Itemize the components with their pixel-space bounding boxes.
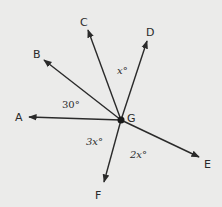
angle-diagram: A B C D E F G 30° x° 3x° 2x° bbox=[0, 0, 222, 207]
angle-label-cd: x° bbox=[117, 65, 128, 76]
point-label-a: A bbox=[15, 111, 23, 124]
center-label-g: G bbox=[127, 112, 136, 125]
ray-ga bbox=[29, 117, 121, 120]
point-label-e: E bbox=[204, 158, 211, 171]
angle-label-fe: 2x° bbox=[129, 149, 147, 160]
ray-gf bbox=[104, 120, 121, 182]
point-label-f: F bbox=[95, 189, 101, 202]
point-label-c: C bbox=[80, 16, 88, 29]
point-label-d: D bbox=[146, 26, 154, 39]
center-point bbox=[118, 117, 125, 124]
point-label-b: B bbox=[33, 48, 41, 61]
ray-gd bbox=[121, 41, 147, 120]
angle-label-af: 3x° bbox=[86, 136, 103, 147]
angle-label-ab: 30° bbox=[62, 99, 80, 110]
